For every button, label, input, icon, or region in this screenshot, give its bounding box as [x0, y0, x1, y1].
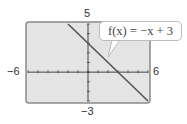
x-min-label: −6	[7, 66, 20, 77]
x-max-label: 6	[153, 66, 159, 77]
function-label: f(x) = −x + 3	[108, 24, 173, 39]
y-max-label: 5	[84, 8, 90, 19]
y-min-label: −3	[81, 106, 94, 117]
function-callout: f(x) = −x + 3	[99, 21, 182, 41]
